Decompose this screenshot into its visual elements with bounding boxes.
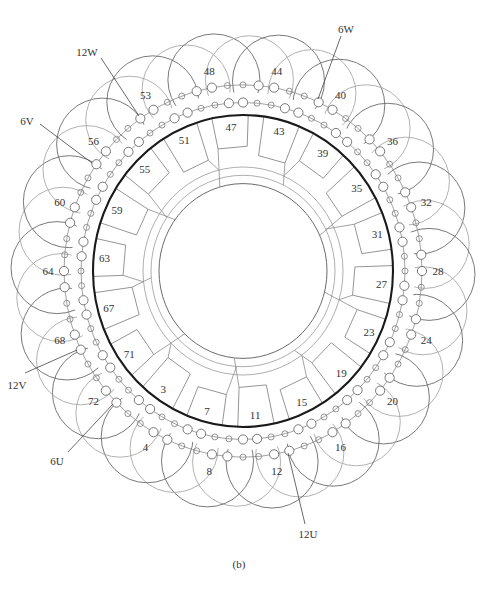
terminal-node bbox=[223, 452, 232, 461]
terminal-node bbox=[395, 223, 404, 232]
terminal-node bbox=[60, 283, 69, 292]
terminal-node bbox=[307, 419, 316, 428]
terminal-node bbox=[207, 450, 216, 459]
terminal-node bbox=[401, 188, 410, 197]
terminal-node bbox=[398, 237, 407, 246]
slot-pocket bbox=[143, 358, 191, 409]
slot-number-label: 39 bbox=[317, 147, 329, 159]
slot-number-label: 31 bbox=[372, 228, 383, 240]
terminal-node bbox=[407, 203, 416, 212]
terminal-node bbox=[79, 237, 88, 246]
terminal-node bbox=[82, 310, 91, 319]
coil-number-label: 44 bbox=[271, 65, 283, 77]
end-connector bbox=[218, 149, 220, 187]
terminal-node bbox=[371, 170, 380, 179]
lead-label-6v: 6V bbox=[20, 115, 34, 127]
connection-nodes bbox=[59, 81, 426, 461]
terminal-node bbox=[98, 351, 107, 360]
terminal-node bbox=[106, 363, 115, 372]
inner-ring-1 bbox=[159, 184, 327, 359]
slot-number-label: 27 bbox=[376, 278, 388, 290]
phase-leads: 12W 6W 6V 12V 6U 12U bbox=[8, 23, 355, 540]
coil-loop bbox=[168, 34, 260, 126]
slot-number-label: 67 bbox=[103, 302, 115, 314]
terminal-node bbox=[314, 98, 323, 107]
terminal-node bbox=[76, 345, 85, 354]
inner-end-connections bbox=[93, 115, 393, 427]
terminal-node bbox=[253, 434, 262, 443]
slot-number-label: 19 bbox=[336, 367, 348, 379]
coil-loop bbox=[373, 162, 465, 254]
end-connector bbox=[283, 163, 285, 185]
lead-label-12v: 12V bbox=[8, 379, 27, 391]
terminal-node bbox=[269, 450, 278, 459]
slot-number-label: 51 bbox=[179, 134, 190, 146]
coil-loop bbox=[383, 228, 475, 320]
coil-loop bbox=[361, 137, 449, 225]
slot-number-label: 63 bbox=[99, 252, 111, 264]
terminal-node bbox=[207, 83, 216, 92]
terminal-node bbox=[294, 108, 303, 117]
terminal-node bbox=[285, 446, 294, 455]
slot-number-label: 43 bbox=[273, 125, 285, 137]
terminal-node bbox=[385, 373, 394, 382]
terminal-node bbox=[163, 435, 172, 444]
end-connector bbox=[339, 295, 352, 299]
terminal-node bbox=[376, 147, 385, 156]
terminal-node bbox=[70, 203, 79, 212]
coil-number-label: 64 bbox=[43, 265, 55, 277]
end-connector bbox=[168, 343, 171, 357]
end-connector bbox=[284, 161, 300, 176]
terminal-node bbox=[365, 135, 374, 144]
terminal-node bbox=[343, 137, 352, 146]
terminal-node bbox=[224, 99, 233, 108]
coil-number-label: 68 bbox=[54, 334, 66, 346]
slot-number-label: 23 bbox=[363, 326, 375, 338]
end-connector bbox=[208, 160, 218, 170]
coil-number-label: 40 bbox=[335, 89, 347, 101]
terminal-node bbox=[149, 428, 158, 437]
coil-number-label: 48 bbox=[204, 65, 216, 77]
coil-loop bbox=[205, 36, 293, 124]
terminal-node bbox=[331, 128, 340, 137]
terminal-node bbox=[92, 195, 101, 204]
terminal-node bbox=[170, 114, 179, 123]
terminal-node bbox=[385, 338, 394, 347]
terminal-node bbox=[101, 386, 110, 395]
terminal-node bbox=[376, 386, 385, 395]
terminal-node bbox=[101, 147, 110, 156]
terminal-node bbox=[400, 281, 409, 290]
coil-number-label: 53 bbox=[140, 89, 152, 101]
lead-line-12v bbox=[25, 350, 77, 373]
terminal-node bbox=[328, 105, 337, 114]
terminal-node bbox=[136, 114, 145, 123]
terminal-node bbox=[134, 395, 143, 404]
terminal-node bbox=[65, 218, 74, 227]
lead-line-6u bbox=[68, 404, 113, 452]
lead-line-12w bbox=[101, 58, 139, 116]
coil-number-label: 36 bbox=[387, 135, 399, 147]
terminal-node bbox=[398, 296, 407, 305]
terminal-node bbox=[149, 105, 158, 114]
slot-number-label: 55 bbox=[139, 163, 151, 175]
terminal-node bbox=[379, 182, 388, 191]
end-connector bbox=[148, 194, 166, 217]
lead-line-6v bbox=[40, 124, 92, 163]
terminal-node bbox=[411, 315, 420, 324]
coil-loop bbox=[11, 222, 103, 314]
slot-number-label: 7 bbox=[204, 405, 210, 417]
coil-number-label: 8 bbox=[206, 465, 212, 477]
lead-label-6w: 6W bbox=[338, 23, 355, 35]
terminal-node bbox=[417, 266, 426, 275]
stator-circle bbox=[93, 115, 393, 427]
inner-ring-3 bbox=[143, 167, 343, 375]
terminal-node bbox=[379, 351, 388, 360]
terminal-node bbox=[98, 182, 107, 191]
terminal-node bbox=[238, 98, 247, 107]
terminal-node bbox=[70, 330, 79, 339]
terminal-node bbox=[124, 147, 133, 156]
terminal-node bbox=[145, 404, 154, 413]
lead-label-6u: 6U bbox=[50, 455, 64, 467]
coil-loop bbox=[371, 294, 463, 386]
slot-number-label: 35 bbox=[351, 182, 363, 194]
